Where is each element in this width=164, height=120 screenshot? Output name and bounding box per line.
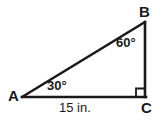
vertex-label-b: B: [139, 4, 150, 19]
angle-label-at-b: 60°: [116, 36, 136, 49]
triangle-diagram: A B C 30° 60° 15 in.: [0, 0, 164, 120]
side-length-label-ac: 15 in.: [59, 101, 91, 114]
vertex-label-a: A: [8, 88, 19, 103]
angle-label-at-a: 30°: [47, 79, 67, 92]
side-ab-hypotenuse-line: [22, 22, 145, 97]
vertex-label-c: C: [141, 100, 152, 115]
